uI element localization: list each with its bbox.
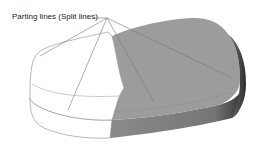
parting-lines-label: Parting lines (Split lines) [12, 12, 98, 22]
white-half-top [30, 32, 124, 120]
parting-lines-diagram: Parting lines (Split lines) [0, 0, 254, 144]
